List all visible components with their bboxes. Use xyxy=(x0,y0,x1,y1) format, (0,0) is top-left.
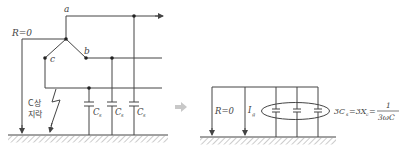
phase-a-line xyxy=(66,16,160,39)
equation-label: 3C s =3X c = 1 3ωC xyxy=(334,101,399,122)
capacitor-eq-2 xyxy=(293,87,301,137)
node-label-c: c xyxy=(50,54,55,64)
ground-hatch-right xyxy=(200,138,336,145)
svg-text:s: s xyxy=(143,112,146,118)
node-label-a: a xyxy=(64,4,69,14)
svg-text:=3X: =3X xyxy=(349,107,367,116)
neutral-to-b xyxy=(66,39,86,58)
node-label-b: b xyxy=(84,46,90,56)
fault-lightning-icon xyxy=(51,89,60,126)
svg-text:1: 1 xyxy=(386,101,391,110)
capacitor-eq-3 xyxy=(314,87,322,137)
resistor-label-right: R=0 xyxy=(214,106,235,116)
svg-text:=: = xyxy=(369,107,376,116)
resistor-label-left: R=0 xyxy=(11,28,32,38)
fault-label-line2: 지락 xyxy=(28,109,43,119)
transition-arrow-icon xyxy=(175,102,187,112)
fault-label-line1: C상 xyxy=(28,98,42,108)
circuit-figure: a b c R=0 C상 지락 C s C s C s xyxy=(0,0,401,154)
current-label-ig: I g xyxy=(247,105,255,118)
ground-hatch xyxy=(8,136,168,143)
capacitor-group-ellipse xyxy=(262,103,330,120)
capacitor-label-2: C s xyxy=(115,107,124,118)
capacitor-cs-3 xyxy=(129,16,139,135)
capacitor-label-1: C s xyxy=(93,107,102,118)
neutral-to-c xyxy=(45,39,66,58)
svg-text:s: s xyxy=(121,112,124,118)
phase-c-line xyxy=(45,58,162,88)
svg-text:s: s xyxy=(99,112,102,118)
svg-text:3ωC: 3ωC xyxy=(378,113,395,122)
svg-text:3C: 3C xyxy=(334,107,345,116)
fault-arrow-icon xyxy=(50,123,52,132)
capacitor-eq-1 xyxy=(272,87,280,137)
capacitor-cs-2 xyxy=(107,58,117,135)
svg-text:g: g xyxy=(252,111,255,118)
capacitor-label-3: C s xyxy=(137,107,146,118)
